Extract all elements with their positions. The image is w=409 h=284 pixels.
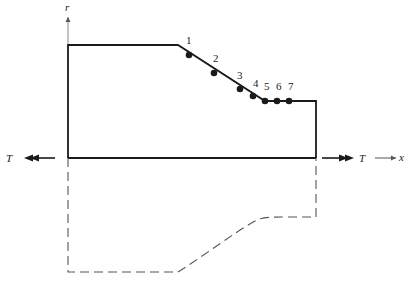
node-label-7: 7	[288, 80, 294, 92]
left-load-arrow: T	[6, 152, 55, 164]
double-arrowhead-right-icon	[339, 155, 354, 162]
node-label-1: 1	[186, 34, 192, 46]
r-axis: r	[65, 1, 70, 45]
node-label-5: 5	[264, 80, 270, 92]
node-4	[250, 93, 257, 100]
shaft-profile-lower-dashed	[68, 158, 316, 272]
node-points: 1234567	[186, 34, 294, 104]
left-load-label: T	[6, 152, 13, 164]
node-label-2: 2	[213, 52, 219, 64]
node-5	[262, 98, 269, 105]
r-axis-label: r	[65, 1, 70, 13]
node-3	[237, 86, 244, 93]
x-axis-label: x	[398, 151, 404, 163]
node-label-3: 3	[237, 69, 243, 81]
node-label-6: 6	[276, 80, 282, 92]
node-2	[211, 70, 218, 77]
double-arrowhead-left-icon	[24, 155, 39, 162]
right-load-label: T	[359, 152, 366, 164]
x-axis-indicator: x	[375, 151, 404, 163]
node-6	[274, 98, 281, 105]
node-label-4: 4	[253, 77, 259, 89]
right-load-arrow: T	[322, 152, 366, 164]
node-7	[286, 98, 293, 105]
stepped-shaft-diagram: r T T x 1234567	[0, 0, 409, 284]
node-1	[186, 52, 193, 59]
